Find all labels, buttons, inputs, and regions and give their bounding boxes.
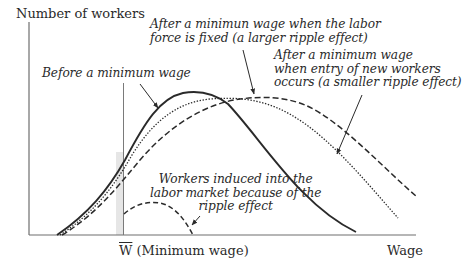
curve-smaller-ripple-effect — [62, 97, 416, 235]
minimum-wage-text: (Minimum wage) — [132, 243, 248, 258]
annotation-larger-line2: force is fixed (a larger ripple effect) — [150, 32, 381, 46]
annotation-induced-line2: labor market because of the — [150, 187, 321, 201]
x-axis-label: Wage — [387, 244, 423, 258]
annotation-induced-line1: Workers induced into the — [150, 173, 321, 187]
annotation-induced-line3: ripple effect — [150, 200, 321, 214]
curve-before-minimum-wage — [57, 92, 356, 235]
annotation-larger-line1: After a minimun wage when the labor — [150, 18, 381, 32]
arrow-before-minimum-wage — [140, 84, 158, 108]
annotation-smaller-line2: when entry of new workers — [274, 63, 462, 77]
annotation-smaller-line3: occurs (a smaller ripple effect) — [274, 76, 462, 90]
annotation-smaller-ripple-effect: After a minimum wage when entry of new w… — [274, 49, 462, 90]
annotation-induced-workers: Workers induced into the labor market be… — [150, 173, 321, 214]
annotation-before-minimum-wage: Before a minimum wage — [42, 67, 191, 81]
arrow-larger-ripple-effect — [243, 50, 254, 94]
w-bar-symbol: W — [119, 243, 132, 258]
annotation-larger-ripple-effect: After a minimun wage when the labor forc… — [150, 18, 381, 45]
curve-larger-ripple-effect — [60, 98, 398, 235]
arrow-smaller-ripple-effect — [337, 95, 362, 154]
arrow-induced-workers — [192, 216, 200, 225]
annotation-smaller-line1: After a minimum wage — [274, 49, 462, 63]
minimum-wage-marker-label: W (Minimum wage) — [119, 244, 249, 258]
y-axis-label: Number of workers — [16, 7, 145, 21]
